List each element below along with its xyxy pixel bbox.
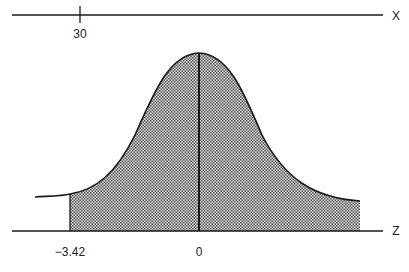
x-axis: 30 X (12, 6, 400, 41)
z-axis-label: Z (392, 224, 399, 238)
z-tick-label-minus-3-42: −3.42 (55, 245, 86, 259)
shaded-area (70, 53, 360, 231)
normal-distribution-diagram: 30 X −3.42 0 Z (0, 0, 409, 272)
x-axis-label: X (392, 9, 400, 23)
x-tick-label: 30 (73, 27, 87, 41)
z-tick-label-zero: 0 (196, 245, 203, 259)
